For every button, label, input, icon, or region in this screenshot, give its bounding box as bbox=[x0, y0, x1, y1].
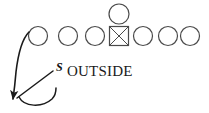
outside-label: OUTSIDE bbox=[67, 63, 133, 79]
play-diagram: S OUTSIDE bbox=[0, 0, 209, 113]
player-lineman-6[interactable] bbox=[181, 27, 200, 46]
player-quarterback[interactable] bbox=[109, 4, 129, 24]
player-lineman-2[interactable] bbox=[59, 27, 78, 46]
player-lineman-1[interactable] bbox=[29, 27, 48, 46]
player-center-group[interactable] bbox=[110, 27, 129, 46]
safety-label: S bbox=[56, 60, 63, 74]
play-diagram-canvas: S OUTSIDE bbox=[0, 0, 209, 113]
diagram-background bbox=[0, 0, 209, 113]
player-lineman-5[interactable] bbox=[159, 27, 178, 46]
player-lineman-4[interactable] bbox=[134, 27, 153, 46]
player-lineman-3[interactable] bbox=[86, 27, 105, 46]
